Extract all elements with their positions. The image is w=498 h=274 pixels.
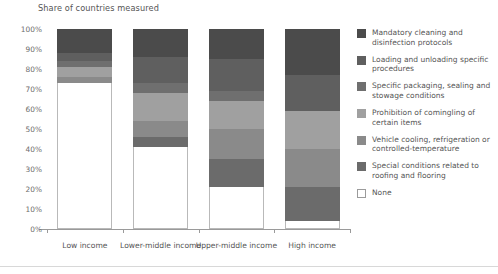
x-axis-label: Upper-middle income — [193, 241, 279, 251]
bar-stack[interactable] — [57, 29, 112, 229]
y-axis-tick-label: 90% — [26, 45, 42, 54]
legend-label: Specific packaging, sealing and stowage … — [372, 81, 497, 100]
y-axis-tick-label: 30% — [26, 165, 42, 174]
x-axis-baseline — [39, 229, 350, 230]
bar-segment[interactable] — [285, 75, 340, 111]
legend-swatch-icon — [357, 109, 366, 118]
bar-segment[interactable] — [209, 91, 264, 101]
legend-item[interactable]: None — [357, 188, 497, 198]
x-axis-label: Lower-middle income — [118, 241, 204, 251]
footer-divider — [0, 266, 498, 267]
x-axis-tick — [350, 229, 351, 233]
y-axis-tick-label: 100% — [21, 25, 42, 34]
bar-segment[interactable] — [209, 129, 264, 159]
legend-item[interactable]: Special conditions related to roofing an… — [357, 161, 497, 180]
bar-segment[interactable] — [57, 67, 112, 77]
legend-item[interactable]: Loading and unloading specific procedure… — [357, 55, 497, 74]
bar-segment[interactable] — [285, 149, 340, 187]
bar-segment[interactable] — [209, 187, 264, 229]
y-axis-tick-label: 40% — [26, 145, 42, 154]
legend-item[interactable]: Vehicle cooling, refrigeration or contro… — [357, 135, 497, 154]
x-axis-tick — [199, 229, 200, 233]
plot-area: 100%90%80%70%60%50%40%30%20%10%0% — [47, 29, 350, 229]
bar-stack[interactable] — [209, 29, 264, 229]
x-axis-tick — [274, 229, 275, 233]
chart-root: Share of countries measured 100%90%80%70… — [0, 0, 498, 274]
legend-swatch-icon — [357, 82, 366, 91]
bar-stack[interactable] — [133, 29, 188, 229]
bar-segment[interactable] — [209, 29, 264, 59]
y-axis-tick-label: 80% — [26, 65, 42, 74]
bar-segment[interactable] — [209, 59, 264, 91]
x-axis-label: High income — [269, 241, 355, 251]
bar-segment[interactable] — [133, 121, 188, 137]
bar-segment[interactable] — [57, 83, 112, 229]
bar-segment[interactable] — [133, 137, 188, 147]
legend-swatch-icon — [357, 136, 366, 145]
bar-segment[interactable] — [57, 29, 112, 53]
legend-label: Special conditions related to roofing an… — [372, 161, 497, 180]
y-axis-tick-label: 50% — [26, 125, 42, 134]
legend-swatch-icon — [357, 56, 366, 65]
y-axis-tick-label: 0% — [30, 225, 42, 234]
bar-segment[interactable] — [133, 93, 188, 121]
legend-swatch-icon — [357, 189, 366, 198]
bar-segment[interactable] — [209, 159, 264, 187]
legend-label: Loading and unloading specific procedure… — [372, 55, 497, 74]
legend-label: Mandatory cleaning and disinfection prot… — [372, 28, 497, 47]
bar-segment[interactable] — [285, 111, 340, 149]
bar-segment[interactable] — [285, 29, 340, 75]
bar-segment[interactable] — [57, 53, 112, 61]
legend-item[interactable]: Specific packaging, sealing and stowage … — [357, 81, 497, 100]
legend-swatch-icon — [357, 29, 366, 38]
legend-label: Vehicle cooling, refrigeration or contro… — [372, 135, 497, 154]
bar-segment[interactable] — [209, 101, 264, 129]
legend-label: Prohibition of comingling of certain ite… — [372, 108, 497, 127]
bar-segment[interactable] — [133, 29, 188, 57]
chart-title: Share of countries measured — [38, 3, 159, 13]
legend-item[interactable]: Mandatory cleaning and disinfection prot… — [357, 28, 497, 47]
chart-legend: Mandatory cleaning and disinfection prot… — [357, 28, 497, 206]
y-axis-tick-label: 70% — [26, 85, 42, 94]
y-axis-tick-label: 20% — [26, 185, 42, 194]
legend-swatch-icon — [357, 162, 366, 171]
bar-stack[interactable] — [285, 29, 340, 229]
bar-segment[interactable] — [133, 57, 188, 83]
x-axis-tick — [123, 229, 124, 233]
legend-label: None — [372, 188, 392, 198]
bar-segment[interactable] — [133, 83, 188, 93]
bar-segment[interactable] — [285, 187, 340, 221]
y-axis-tick-label: 10% — [26, 205, 42, 214]
bar-segment[interactable] — [285, 221, 340, 229]
bar-segment[interactable] — [133, 147, 188, 229]
legend-item[interactable]: Prohibition of comingling of certain ite… — [357, 108, 497, 127]
x-axis-label: Low income — [42, 241, 128, 251]
x-axis-tick — [47, 229, 48, 233]
y-axis-tick-label: 60% — [26, 105, 42, 114]
